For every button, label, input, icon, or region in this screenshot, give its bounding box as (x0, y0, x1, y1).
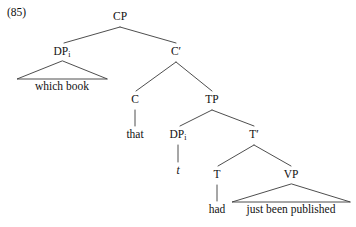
branch-tp-to-dp-trace (180, 110, 212, 126)
terminal-that: that (126, 128, 143, 141)
node-tp: TP (205, 93, 218, 106)
node-t-head-label: T (213, 168, 220, 180)
branch-cp-to-cbar (120, 27, 176, 43)
branch-tp-to-tbar (212, 110, 254, 126)
node-c-bar-prime: ′ (179, 45, 182, 57)
node-t-head: T (213, 168, 220, 181)
node-dp-trace-subscript: i (184, 133, 186, 142)
syntax-tree-figure: (85) CP (0, 0, 356, 227)
node-tp-label: TP (205, 93, 218, 105)
node-dp-spec: DPi (54, 45, 71, 61)
node-t-bar: T′ (249, 128, 259, 141)
node-dp-spec-label: DP (54, 45, 69, 57)
branch-cp-to-dp (64, 27, 120, 43)
terminal-trace: t (176, 164, 179, 177)
node-t-bar-label: T (249, 128, 256, 140)
which-book-triangle (17, 61, 107, 79)
branch-tbar-to-t-head (218, 145, 254, 166)
node-t-bar-prime: ′ (256, 128, 259, 140)
node-vp-label: VP (284, 168, 299, 180)
node-dp-trace-label: DP (170, 128, 185, 140)
node-cp-label: CP (113, 10, 127, 22)
node-c-bar: C′ (171, 45, 181, 58)
terminal-had: had (209, 203, 226, 216)
terminal-which-book: which book (35, 80, 89, 93)
node-cp: CP (113, 10, 127, 23)
branch-tbar-to-vp (254, 145, 291, 166)
node-dp-trace: DPi (170, 128, 187, 144)
node-dp-spec-subscript: i (68, 50, 70, 59)
node-c-head: C (131, 93, 139, 106)
branch-cbar-to-tp (176, 62, 212, 91)
node-c-head-label: C (131, 93, 139, 105)
node-vp: VP (284, 168, 299, 181)
terminal-just-been-published: just been published (247, 203, 336, 216)
node-c-bar-label: C (171, 45, 179, 57)
vp-triangle (232, 184, 350, 202)
tree-branch-lines (0, 0, 356, 227)
branch-cbar-to-c (136, 62, 176, 91)
